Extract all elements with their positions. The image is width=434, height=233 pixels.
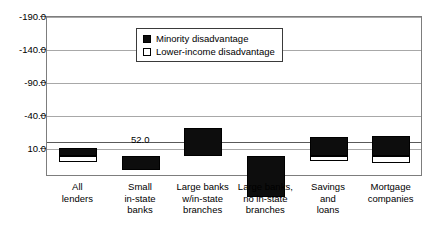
x-axis-label: Alllenders bbox=[46, 181, 109, 204]
bar-group bbox=[47, 17, 110, 175]
data-label: 52.0 bbox=[131, 134, 150, 145]
legend-label: Minority disadvantage bbox=[156, 33, 248, 44]
x-axis-label: Mortgagecompanies bbox=[359, 181, 422, 204]
x-axis-label: Savingsandloans bbox=[297, 181, 360, 216]
x-axis-label-line: loans bbox=[297, 204, 360, 216]
bar-minority-disadvantage bbox=[59, 148, 97, 156]
bar-lower-income-disadvantage bbox=[59, 156, 97, 162]
x-axis-labels: AlllendersSmallin-statebanksLarge banksw… bbox=[46, 181, 422, 231]
bar-group bbox=[360, 17, 423, 175]
y-axis: -190.0 -140.0 -90.0 -40.0 10.0 bbox=[0, 16, 46, 176]
x-axis-label-line: Savings bbox=[297, 181, 360, 193]
bar-chart: -190.0 -140.0 -90.0 -40.0 10.0 52.0 Mino… bbox=[0, 0, 434, 233]
x-axis-label: Smallin-statebanks bbox=[109, 181, 172, 216]
x-axis-label-line: in-state bbox=[109, 193, 172, 205]
bar-lower-income-disadvantage bbox=[310, 156, 348, 161]
bar-minority-disadvantage bbox=[184, 128, 222, 156]
x-axis-label: Large banks,no in-statebranches bbox=[234, 181, 297, 216]
x-axis-label-line: banks bbox=[109, 204, 172, 216]
hollow-square-icon bbox=[143, 48, 151, 56]
bar-minority-disadvantage bbox=[122, 156, 160, 171]
legend-item-minority: Minority disadvantage bbox=[143, 32, 275, 45]
x-axis-label-line: Large banks bbox=[171, 181, 234, 193]
bar-minority-disadvantage bbox=[372, 136, 410, 156]
legend-item-lower-income: Lower-income disadvantage bbox=[143, 45, 275, 58]
x-axis-label-line: lenders bbox=[46, 193, 109, 205]
x-axis-label-line: and bbox=[297, 193, 360, 205]
y-tick-label: -40.0 bbox=[4, 111, 46, 120]
y-tick-label: 10.0 bbox=[4, 144, 46, 153]
x-axis-label-line: All bbox=[46, 181, 109, 193]
y-tick-label: -190.0 bbox=[4, 12, 46, 21]
bar-minority-disadvantage bbox=[310, 137, 348, 155]
y-tick-label: -90.0 bbox=[4, 78, 46, 87]
x-axis-label-line: companies bbox=[359, 193, 422, 205]
x-axis-label-line: no in-state bbox=[234, 193, 297, 205]
x-axis-label-line: w/in-state bbox=[171, 193, 234, 205]
bar-group bbox=[298, 17, 361, 175]
x-axis-label-line: Mortgage bbox=[359, 181, 422, 193]
x-axis-label: Large banksw/in-statebranches bbox=[171, 181, 234, 216]
filled-square-icon bbox=[143, 35, 151, 43]
x-axis-label-line: Large banks, bbox=[234, 181, 297, 193]
y-tick-label: -140.0 bbox=[4, 45, 46, 54]
x-axis-label-line: branches bbox=[171, 204, 234, 216]
x-axis-label-line: Small bbox=[109, 181, 172, 193]
x-axis-label-line: branches bbox=[234, 204, 297, 216]
legend: Minority disadvantage Lower-income disad… bbox=[136, 28, 283, 62]
bar-lower-income-disadvantage bbox=[372, 156, 410, 163]
legend-label: Lower-income disadvantage bbox=[156, 46, 275, 57]
